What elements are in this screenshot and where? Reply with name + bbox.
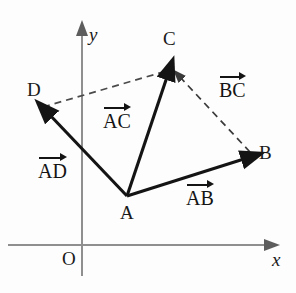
point-label-B: B (259, 143, 272, 162)
vector-label-BC: BC (219, 72, 246, 100)
point-label-A: A (120, 203, 134, 222)
x-axis-label: x (272, 250, 280, 269)
vector-label-AD: AD (38, 153, 67, 181)
y-axis-label: y (89, 25, 97, 44)
vector-AC-line (127, 74, 168, 196)
overarrow-AC-icon (103, 103, 131, 112)
overarrow-AB-icon (186, 180, 214, 189)
vectors-group (48, 74, 247, 196)
point-label-C: C (163, 29, 176, 48)
dashed-segment-DC (43, 70, 170, 107)
overarrow-AD-icon (38, 153, 67, 162)
diagram-canvas (0, 0, 296, 293)
vector-label-AB: AB (186, 180, 214, 208)
origin-label: O (62, 249, 76, 268)
vector-label-AC: AC (103, 103, 131, 131)
point-label-D: D (27, 80, 41, 99)
vector-diagram-figure: A B C D y x O AB AC AD BC (0, 0, 296, 293)
overarrow-BC-icon (219, 72, 246, 81)
